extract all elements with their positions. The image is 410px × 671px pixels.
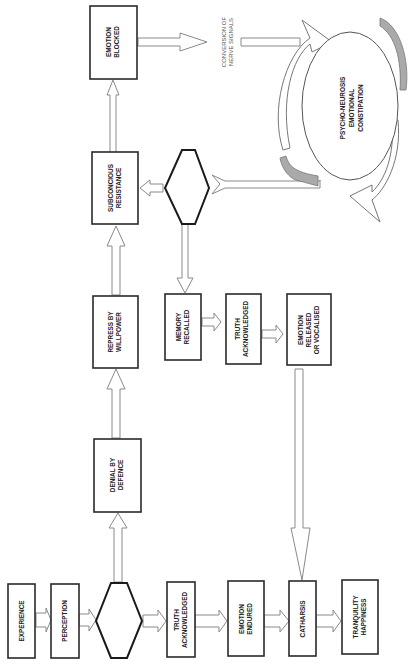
node-truth-acknowledged-1: TRUTHACKNOWLEDGED — [167, 582, 195, 657]
svg-text:MEMORYRECALLED: MEMORYRECALLED — [175, 309, 190, 344]
node-memory-recalled: MEMORYRECALLED — [165, 294, 201, 360]
svg-text:SUBCONCIOUSRESISTANCE: SUBCONCIOUSRESISTANCE — [107, 163, 122, 212]
arrow-decision-to-subconscious — [140, 180, 163, 196]
svg-text:EMOTIONENDURED: EMOTIONENDURED — [238, 603, 253, 635]
node-perception: PERCEPTION — [51, 584, 79, 658]
svg-text:DENIAL BYDEFENCE: DENIAL BYDEFENCE — [109, 457, 124, 492]
arrow-perception-to-decision — [79, 609, 96, 631]
arrow-decision-to-denial — [109, 513, 127, 582]
node-emotion-endured: EMOTIONENDURED — [228, 581, 264, 656]
flow-diagram: EXPERIENCE PERCEPTION TRUTHACKNOWLEDGED … — [0, 0, 410, 671]
arrow-subconscious-to-blocked — [107, 80, 119, 160]
node-tranquility: TRANQUILITYHAPPINESS — [342, 580, 378, 654]
node-emotion-released: EMOTIONRELEASEDOR VOCALISED — [287, 294, 331, 365]
node-catharsis: CATHARSIS — [289, 581, 316, 656]
decision-diamond-1 — [96, 583, 142, 658]
arrow-experience-to-perception — [36, 608, 51, 632]
arrow-released-to-catharsis — [291, 369, 310, 580]
node-subconscious-resistance: SUBCONCIOUSRESISTANCE — [92, 152, 138, 224]
svg-text:CONVERSION OFNERVE SIGNALS: CONVERSION OFNERVE SIGNALS — [221, 16, 234, 67]
decision-diamond-2 — [165, 150, 209, 224]
svg-text:REPRESS BYWILLPOWER: REPRESS BYWILLPOWER — [107, 311, 122, 353]
svg-text:CATHARSIS: CATHARSIS — [299, 600, 306, 638]
node-denial-by-defence: DENIAL BYDEFENCE — [94, 439, 141, 512]
svg-text:TRANQUILITYHAPPINESS: TRANQUILITYHAPPINESS — [352, 595, 367, 639]
arrow-memory-to-truth — [202, 313, 221, 331]
node-experience: EXPERIENCE — [8, 584, 35, 658]
arrow-catharsis-to-tranquility — [316, 610, 341, 632]
arrow-denial-to-repress — [107, 369, 125, 438]
arrow-truth-to-endured — [195, 610, 227, 632]
annotation-conversion: CONVERSION OFNERVE SIGNALS — [221, 16, 234, 67]
svg-text:PERCEPTION: PERCEPTION — [61, 600, 68, 642]
arrow-decision-to-truth — [143, 610, 166, 632]
arrow-endured-to-catharsis — [264, 610, 289, 632]
arrow-truth-to-released — [262, 325, 283, 343]
arrow-blocked-to-conversion — [138, 33, 207, 51]
node-repress-by-willpower: REPRESS BYWILLPOWER — [93, 296, 138, 368]
arrow-repress-to-subconscious — [107, 226, 125, 295]
arrow-conversion-to-neurosis — [241, 38, 300, 46]
svg-text:EXPERIENCE: EXPERIENCE — [18, 600, 25, 642]
svg-text:EMOTIONBLOCKED: EMOTIONBLOCKED — [105, 26, 120, 58]
arrow-decision-to-memory — [177, 224, 193, 293]
node-truth-acknowledged-2: TRUTHACKNOWLEDGED — [226, 294, 261, 364]
node-emotion-blocked: EMOTIONBLOCKED — [90, 6, 137, 79]
